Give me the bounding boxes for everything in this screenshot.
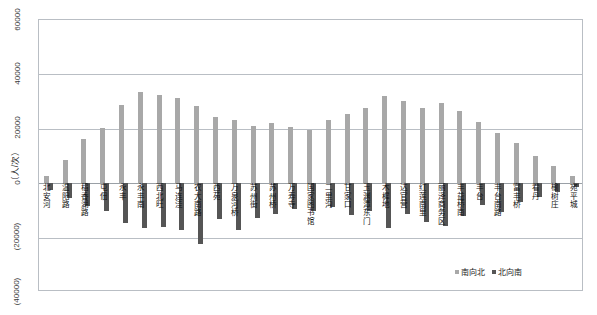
bar-group <box>269 20 278 290</box>
bar-positive <box>63 160 68 183</box>
bar-group <box>439 20 448 290</box>
bar-positive <box>439 103 444 184</box>
bar-group <box>157 20 166 290</box>
bar-positive <box>363 108 368 184</box>
bar-positive <box>514 143 519 183</box>
x-axis-category-label: 苏州街 <box>250 184 259 209</box>
x-axis-category-label: 达官营 <box>400 184 409 209</box>
bar-positive <box>495 133 500 183</box>
bar-group <box>119 20 128 290</box>
legend-label: 南向北 <box>461 266 485 277</box>
bar-positive <box>420 108 425 183</box>
bar-group <box>533 20 542 290</box>
x-axis-category-label: 甘家口 <box>344 184 353 209</box>
x-axis-category-label: 永丰南 <box>137 184 146 209</box>
x-axis-category-label: 永丰 <box>118 184 127 201</box>
bar-group <box>570 20 579 290</box>
bar-group <box>551 20 560 290</box>
bar-positive <box>232 120 237 183</box>
y-axis-tick-label: 20000 <box>13 117 22 139</box>
x-axis-category-label: 屯佃 <box>99 184 108 201</box>
x-axis-category-label: 马连洼 <box>174 184 183 209</box>
bar-group <box>326 20 335 290</box>
y-axis-tick-label: 60000 <box>13 8 22 30</box>
bar-positive <box>119 105 124 183</box>
bar-group <box>495 20 504 290</box>
bar-positive <box>138 92 143 183</box>
bar-group <box>194 20 203 290</box>
y-axis-tick: (20000) <box>2 232 32 242</box>
x-axis-category-label: 看丹 <box>532 184 541 201</box>
x-axis-category-label: 温阳路 <box>62 184 71 209</box>
x-axis-category-label: 丰台 <box>475 184 484 201</box>
legend-item: 南向北 <box>455 266 485 277</box>
x-axis-category-label: 北安河 <box>43 184 52 209</box>
bar-positive <box>100 128 105 183</box>
bar-chart: （人/次） 6000040000200000(20000)(40000) 北安河… <box>0 0 597 315</box>
y-axis-tick: (40000) <box>2 286 32 296</box>
bar-positive <box>533 156 538 183</box>
bar-positive <box>157 95 162 184</box>
x-axis-category-label: 西北旺 <box>156 184 165 209</box>
y-axis-tick: 20000 <box>2 123 32 133</box>
bar-group <box>251 20 260 290</box>
x-axis-category-label: 万泉河桥 <box>231 184 240 218</box>
bars-layer <box>39 20 582 290</box>
bar-positive <box>401 101 406 183</box>
x-axis-category-label: 国家图书馆 <box>306 184 315 226</box>
bar-group <box>81 20 90 290</box>
y-axis-tick: 60000 <box>2 14 32 24</box>
y-axis-tick-label: (40000) <box>12 277 21 305</box>
y-axis-tick: 0 <box>2 177 32 187</box>
chart-legend: 南向北北向南 <box>455 266 522 277</box>
bar-group <box>63 20 72 290</box>
bar-positive <box>251 126 256 183</box>
bar-group <box>345 20 354 290</box>
bar-positive <box>194 106 199 183</box>
bar-group <box>138 20 147 290</box>
bar-group <box>100 20 109 290</box>
x-axis-category-label: 苏州桥 <box>268 184 277 209</box>
y-axis-tick-label: (20000) <box>12 223 21 251</box>
x-axis-category-label: 丰台南路 <box>494 184 503 218</box>
x-axis-category-label: 农大南路 <box>193 184 202 218</box>
bar-positive <box>382 96 387 183</box>
bar-positive <box>213 117 218 183</box>
bar-positive <box>326 120 331 183</box>
bar-group <box>288 20 297 290</box>
bar-group <box>213 20 222 290</box>
bar-positive <box>44 176 49 183</box>
bar-positive <box>288 127 293 183</box>
bar-positive <box>307 130 312 183</box>
legend-item: 北向南 <box>492 266 522 277</box>
bar-group <box>232 20 241 290</box>
bar-group <box>307 20 316 290</box>
x-axis-category-label: 丽泽商务区 <box>438 184 447 226</box>
bar-group <box>44 20 53 290</box>
x-axis-category-label: 榆树庄 <box>550 184 559 209</box>
bar-group <box>175 20 184 290</box>
x-axis-category-label: 富丰桥 <box>513 184 522 209</box>
x-axis-category-label: 万寿寺 <box>287 184 296 209</box>
legend-swatch <box>455 270 459 274</box>
y-axis-tick-label: 40000 <box>13 62 22 84</box>
y-axis-tick-label: 0 <box>12 180 21 184</box>
y-axis-tick: 40000 <box>2 68 32 78</box>
legend-label: 北向南 <box>498 266 522 277</box>
x-axis-category-label: 宛平城 <box>569 184 578 209</box>
bar-positive <box>269 123 274 183</box>
bar-positive <box>551 166 556 183</box>
plot-area <box>38 19 583 291</box>
bar-positive <box>175 98 180 184</box>
bar-group <box>363 20 372 290</box>
x-axis-category-label: 红莲南里 <box>419 184 428 218</box>
legend-swatch <box>492 270 496 274</box>
bar-group <box>514 20 523 290</box>
bar-group <box>457 20 466 290</box>
x-axis-category-label: 西苑 <box>212 184 221 201</box>
x-axis-category-label: 丰益桥南 <box>456 184 465 218</box>
bar-positive <box>345 114 350 183</box>
x-axis-category-label: 玉渊潭东门 <box>362 184 371 226</box>
x-axis-category-label: 稻香湖路 <box>80 184 89 218</box>
bar-positive <box>81 139 86 183</box>
